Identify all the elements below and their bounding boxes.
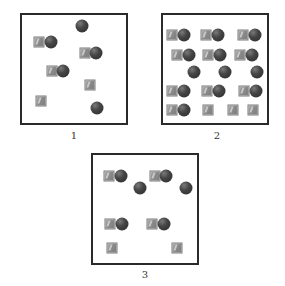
gray-square-icon	[201, 30, 212, 41]
dark-sphere-icon	[251, 66, 264, 79]
gray-square-icon	[248, 105, 259, 116]
gray-square-icon	[235, 50, 246, 61]
dark-sphere-icon	[76, 20, 89, 33]
dark-sphere-icon	[178, 29, 191, 42]
gray-square-icon	[85, 80, 96, 91]
gray-square-icon	[203, 105, 214, 116]
gray-square-icon	[172, 50, 183, 61]
panel-1-frame	[20, 13, 128, 125]
gray-square-icon	[238, 30, 249, 41]
gray-square-icon	[147, 219, 158, 230]
dark-sphere-icon	[57, 65, 70, 78]
dark-sphere-icon	[249, 29, 262, 42]
dark-sphere-icon	[219, 66, 232, 79]
gray-square-icon	[34, 37, 45, 48]
panel-1-label: 1	[71, 130, 77, 141]
dark-sphere-icon	[180, 182, 193, 195]
gray-square-icon	[104, 171, 115, 182]
dark-sphere-icon	[116, 218, 129, 231]
dark-sphere-icon	[91, 102, 104, 115]
panel-3-label: 3	[142, 269, 148, 280]
dark-sphere-icon	[158, 218, 171, 231]
dark-sphere-icon	[178, 85, 191, 98]
dark-sphere-icon	[250, 85, 263, 98]
dark-sphere-icon	[213, 85, 226, 98]
gray-square-icon	[228, 105, 239, 116]
gray-square-icon	[167, 30, 178, 41]
gray-square-icon	[105, 219, 116, 230]
gray-square-icon	[167, 86, 178, 97]
dark-sphere-icon	[246, 49, 259, 62]
dark-sphere-icon	[214, 49, 227, 62]
gray-square-icon	[36, 96, 47, 107]
dark-sphere-icon	[188, 66, 201, 79]
dark-sphere-icon	[115, 170, 128, 183]
gray-square-icon	[239, 86, 250, 97]
panel-2-label: 2	[214, 130, 220, 141]
gray-square-icon	[167, 105, 178, 116]
gray-square-icon	[202, 86, 213, 97]
dark-sphere-icon	[178, 104, 191, 117]
dark-sphere-icon	[212, 29, 225, 42]
gray-square-icon	[203, 50, 214, 61]
gray-square-icon	[107, 243, 118, 254]
dark-sphere-icon	[45, 36, 58, 49]
dark-sphere-icon	[134, 182, 147, 195]
dark-sphere-icon	[183, 49, 196, 62]
gray-square-icon	[172, 243, 183, 254]
dark-sphere-icon	[160, 170, 173, 183]
dark-sphere-icon	[90, 47, 103, 60]
